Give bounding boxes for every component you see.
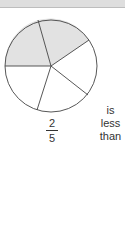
caption-word-is: is <box>96 104 125 117</box>
fraction-label: 2 5 <box>44 117 60 144</box>
caption-text: is less than <box>96 104 125 143</box>
caption-word-less: less <box>96 117 125 130</box>
fraction-bar <box>46 130 58 131</box>
caption-word-than: than <box>96 130 125 143</box>
fraction-denominator: 5 <box>44 132 60 144</box>
fraction-numerator: 2 <box>44 117 60 129</box>
